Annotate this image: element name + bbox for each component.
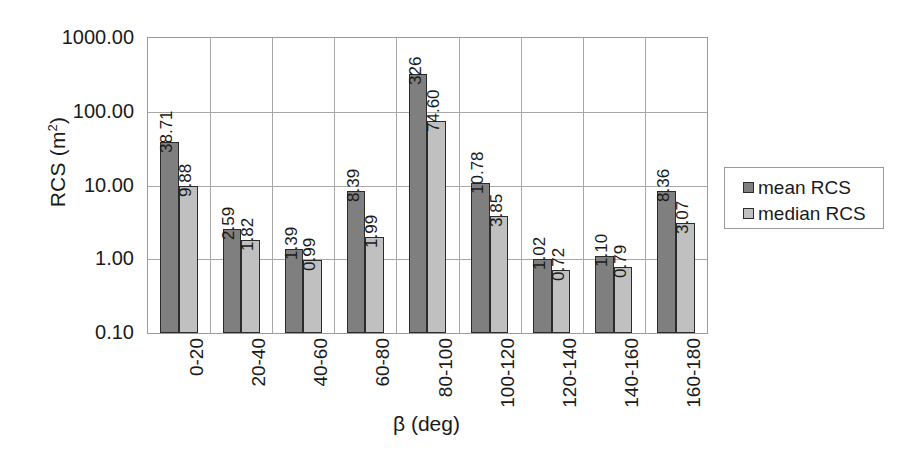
bar-value-label: 2.59 xyxy=(220,207,237,240)
bar-median xyxy=(179,186,198,333)
y-tick-label: 10.00 xyxy=(84,175,134,195)
legend-label-median-rcs: median RCS xyxy=(758,204,866,223)
y-tick-label: 100.00 xyxy=(73,101,134,121)
x-axis-title: β (deg) xyxy=(147,412,706,436)
bar-mean xyxy=(347,191,366,333)
x-tick-label: 80-100 xyxy=(436,338,455,397)
bar-value-label: 1.39 xyxy=(283,227,300,260)
x-tick-label: 100-120 xyxy=(498,338,517,408)
bar-median xyxy=(427,121,446,333)
x-tick-label: 120-140 xyxy=(560,338,579,408)
legend-swatch-mean-rcs xyxy=(743,182,754,193)
bar-group: 8.363.07 xyxy=(645,38,707,333)
x-tick-label: 20-40 xyxy=(249,338,268,387)
bar-group: 32674.60 xyxy=(396,38,458,333)
bar-median xyxy=(676,223,695,333)
bar-median xyxy=(241,240,260,333)
x-tick-label: 140-160 xyxy=(622,338,641,408)
y-axis-tick-labels: 1000.00100.0010.001.000.10 xyxy=(0,0,142,457)
bar-group: 2.591.82 xyxy=(210,38,272,333)
bar-group: 10.783.85 xyxy=(459,38,521,333)
bar-group: 1.100.79 xyxy=(583,38,645,333)
legend-entry-median-rcs: median RCS xyxy=(743,201,883,225)
plot-area: 38.719.882.591.821.390.998.391.9932674.6… xyxy=(147,37,708,334)
bar-value-label: 1.02 xyxy=(531,237,548,270)
legend-label-mean-rcs: mean RCS xyxy=(758,178,851,197)
bar-value-label: 1.82 xyxy=(239,218,256,251)
bar-group: 1.020.72 xyxy=(521,38,583,333)
bar-value-label: 1.99 xyxy=(363,215,380,248)
bar-median xyxy=(490,216,509,333)
y-tick-label: 1.00 xyxy=(95,248,134,268)
x-tick-label: 0-20 xyxy=(187,338,206,376)
bar-groups: 38.719.882.591.821.390.998.391.9932674.6… xyxy=(148,38,707,333)
bar-value-label: 9.88 xyxy=(177,164,194,197)
legend-swatch-median-rcs xyxy=(743,208,754,219)
bar-group: 1.390.99 xyxy=(272,38,334,333)
bar-value-label: 1.10 xyxy=(593,234,610,267)
x-tick-label: 60-80 xyxy=(373,338,392,387)
bar-value-label: 8.39 xyxy=(345,169,362,202)
x-tick-label: 160-180 xyxy=(684,338,703,408)
bar-value-label: 0.99 xyxy=(301,237,318,270)
legend-entry-mean-rcs: mean RCS xyxy=(743,175,883,199)
bar-value-label: 3.07 xyxy=(674,201,691,234)
rcs-bar-chart: RCS (m2) 1000.00100.0010.001.000.10 38.7… xyxy=(0,0,916,457)
x-tick-label: 40-60 xyxy=(311,338,330,387)
bar-value-label: 326 xyxy=(407,57,424,85)
bar-value-label: 8.36 xyxy=(655,169,672,202)
bar-group: 8.391.99 xyxy=(334,38,396,333)
bar-group: 38.719.88 xyxy=(148,38,210,333)
bar-value-label: 38.71 xyxy=(158,111,175,154)
bar-value-label: 3.85 xyxy=(488,194,505,227)
legend: mean RCS median RCS xyxy=(724,167,884,229)
x-axis-tick-labels: 0-2020-4040-6060-8080-100100-120120-1401… xyxy=(147,334,706,424)
bar-value-label: 0.72 xyxy=(550,248,567,281)
y-tick-label: 0.10 xyxy=(95,322,134,342)
y-tick-label: 1000.00 xyxy=(62,27,134,47)
bar-value-label: 0.79 xyxy=(612,245,629,278)
bar-value-label: 74.60 xyxy=(425,90,442,133)
bar-median xyxy=(365,237,384,333)
bar-value-label: 10.78 xyxy=(469,152,486,195)
